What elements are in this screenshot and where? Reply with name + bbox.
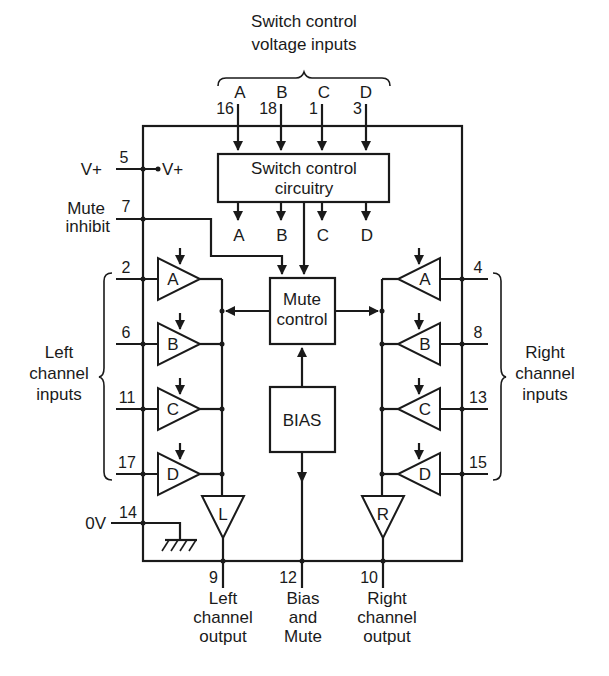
supply-pin: 5	[120, 149, 129, 166]
switch-input-pin-a: 16	[216, 100, 234, 117]
right-buffer-label: R	[377, 505, 389, 524]
left-buffer-label: L	[218, 505, 227, 524]
left-output-label-2: channel	[193, 608, 253, 627]
right-amp-d-label: D	[419, 465, 431, 484]
switch-output-d: D	[361, 226, 373, 245]
right-inputs-label-1: Right	[525, 343, 565, 362]
ground-icon	[162, 540, 197, 551]
switch-input-pins: A 16 B 18 C 1 D 3	[216, 83, 372, 150]
switch-block-line-2: circuitry	[275, 179, 334, 198]
switch-block-line-1: Switch control	[251, 159, 357, 178]
bias-mute-pin: 12	[279, 569, 297, 586]
right-inputs-label-2: channel	[515, 364, 575, 383]
title-line-2: voltage inputs	[252, 35, 357, 54]
right-amp-b: B 8	[380, 313, 489, 365]
switch-input-letter-b: B	[276, 83, 287, 102]
bias-mute-label-1: Bias	[286, 589, 319, 608]
right-inputs-brace	[493, 273, 506, 480]
left-amp-c-label: C	[167, 400, 179, 419]
mute-inhibit-pin: 7	[122, 198, 131, 215]
mute-inhibit-line-1: Mute	[67, 199, 105, 218]
right-amp-b-pin: 8	[474, 324, 483, 341]
switch-input-letter-a: A	[234, 83, 246, 102]
left-inputs-label-3: inputs	[36, 385, 81, 404]
ground-pin: 14	[119, 504, 137, 521]
title-line-1: Switch control	[251, 12, 357, 31]
left-amp-a-pin: 2	[122, 259, 131, 276]
right-amp-d: D 15	[380, 443, 489, 495]
bias-mute-label-3: Mute	[284, 627, 322, 646]
switch-input-pin-c: 1	[309, 100, 318, 117]
mute-block-line-1: Mute	[283, 290, 321, 309]
left-inputs-label-2: channel	[29, 364, 89, 383]
bias-label: BIAS	[283, 411, 322, 430]
right-amp-b-label: B	[419, 335, 430, 354]
switch-output-b: B	[276, 226, 287, 245]
switch-input-letter-c: C	[318, 83, 330, 102]
left-output-label-1: Left	[209, 589, 238, 608]
right-amp-c-pin: 13	[469, 389, 487, 406]
mute-block-line-2: control	[276, 310, 327, 329]
switch-input-pin-d: 3	[353, 100, 362, 117]
left-output-pin: 9	[209, 569, 218, 586]
right-amp-c: C 13	[380, 378, 489, 430]
ground-wire	[111, 523, 180, 540]
right-output-label-2: channel	[357, 608, 417, 627]
right-amp-c-label: C	[419, 400, 431, 419]
left-amp-a: A 2	[116, 248, 222, 300]
right-output-label-1: Right	[367, 589, 407, 608]
internal-supply-label: V+	[162, 160, 183, 179]
switch-output-c: C	[317, 226, 329, 245]
left-inputs-brace	[99, 273, 112, 480]
right-amp-a-pin: 4	[474, 259, 483, 276]
mute-inhibit-wire	[116, 219, 282, 274]
ic-block-diagram: Switch control voltage inputs A 16 B 18 …	[0, 0, 609, 676]
bias-mute-label-2: and	[289, 608, 317, 627]
right-amp-d-pin: 15	[469, 454, 487, 471]
left-output-label-3: output	[199, 627, 247, 646]
ground-label: 0V	[85, 514, 106, 533]
mute-inhibit-line-2: inhibit	[66, 217, 111, 236]
left-amp-c: C 11	[116, 378, 225, 430]
switch-output-a: A	[233, 226, 245, 245]
right-output-pin: 10	[360, 569, 378, 586]
right-amp-a-label: A	[419, 270, 431, 289]
left-amp-b-label: B	[167, 335, 178, 354]
left-inputs-label-1: Left	[45, 343, 74, 362]
left-amp-d-pin: 17	[118, 454, 136, 471]
left-amp-b-pin: 6	[122, 324, 131, 341]
left-amp-b: B 6	[116, 313, 225, 365]
right-amp-a: A 4	[382, 248, 488, 300]
left-amp-d: D 17	[116, 443, 225, 495]
left-amp-d-label: D	[167, 465, 179, 484]
left-amp-a-label: A	[167, 270, 179, 289]
right-inputs-label-3: inputs	[522, 385, 567, 404]
left-amp-c-pin: 11	[119, 389, 136, 406]
switch-input-pin-b: 18	[259, 100, 277, 117]
supply-label: V+	[81, 160, 102, 179]
right-output-label-3: output	[363, 627, 411, 646]
